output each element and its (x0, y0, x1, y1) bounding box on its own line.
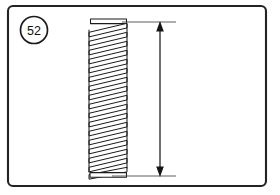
spring-top-closed-coil (91, 19, 127, 24)
callout-label: 52 (27, 24, 41, 38)
figure-callout: 52 (21, 17, 48, 44)
spring-figure-drawing: 52 (0, 0, 280, 195)
figure-canvas: 52 (0, 0, 280, 195)
spring-bottom-closed-coil (90, 173, 127, 178)
